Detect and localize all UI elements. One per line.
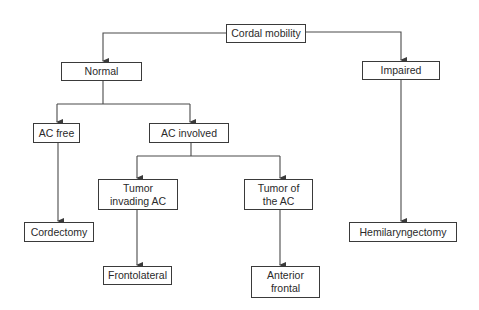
node-tumor-of-the-ac: Tumor of the AC — [244, 179, 313, 210]
node-hemilaryngectomy: Hemilaryngectomy — [349, 222, 457, 242]
node-normal: Normal — [61, 62, 142, 81]
node-ac-free: AC free — [33, 123, 80, 143]
node-impaired: Impaired — [362, 61, 440, 80]
node-tumor-invading-ac: Tumor invading AC — [98, 179, 178, 210]
node-cordectomy: Cordectomy — [24, 222, 94, 242]
node-anterior-frontal: Anterior frontal — [251, 266, 320, 298]
node-cordal-mobility: Cordal mobility — [226, 24, 306, 43]
edge-cordal-impaired — [306, 32, 401, 60]
edge-cordal-normal — [103, 33, 226, 61]
node-ac-involved: AC involved — [149, 123, 229, 143]
flowchart-canvas: Cordal mobility Normal Impaired AC free … — [0, 0, 479, 310]
node-frontolateral: Frontolateral — [103, 266, 172, 285]
connector-lines — [0, 0, 479, 310]
